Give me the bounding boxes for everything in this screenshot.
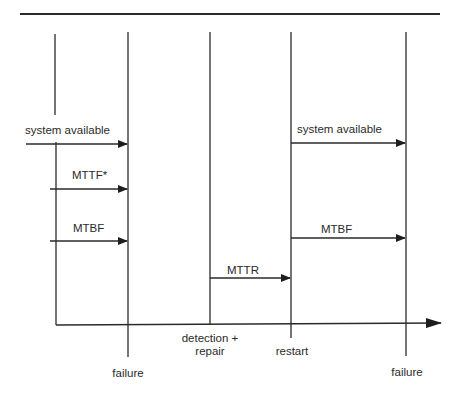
- availability-diagram: system available MTTF* MTBF MTTR system …: [0, 0, 462, 397]
- interval-label-mttf: MTTF*: [72, 169, 108, 181]
- interval-label-mttr: MTTR: [227, 264, 259, 276]
- event-label-restart: restart: [276, 345, 309, 357]
- time-axis-arrow: [56, 323, 441, 325]
- interval-label-mtbf-left: MTBF: [73, 222, 104, 234]
- event-label-detection-repair-line2: repair: [195, 345, 225, 357]
- event-label-failure-1: failure: [112, 367, 143, 379]
- event-label-detection-repair-line1: detection +: [182, 332, 239, 344]
- interval-label-system-available-right: system available: [297, 123, 382, 135]
- interval-label-mtbf-right: MTBF: [321, 223, 352, 235]
- event-label-failure-2: failure: [391, 366, 422, 378]
- interval-label-system-available-left: system available: [25, 124, 110, 136]
